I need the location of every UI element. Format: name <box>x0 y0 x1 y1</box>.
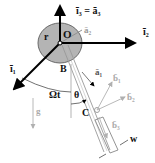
o-label: O <box>63 28 72 40</box>
b1-label: b̄₁ <box>113 73 121 83</box>
a2-label: ā₂ <box>84 25 92 35</box>
w-arrow-left <box>99 154 106 158</box>
center-o-point <box>58 41 62 45</box>
c-label: C <box>82 107 89 118</box>
theta-label: θ <box>74 89 79 100</box>
b-label: B <box>60 63 67 74</box>
b2-label: b̄₂ <box>127 92 135 102</box>
b1-vector <box>97 82 112 110</box>
i3-label: ī₃ = ā₃ <box>75 5 100 16</box>
w-label: w <box>130 133 138 144</box>
omega-t-arc <box>22 78 71 92</box>
diagram-canvas: ā₂ ā₁ b̄₁ b̄₂ b̄₃ w g ī₃ = ā₃ ī₂ ī₁ O r … <box>0 0 155 163</box>
omega-t-label: Ωt <box>49 89 61 100</box>
r-label: r <box>44 31 49 42</box>
g-label: g <box>36 106 41 116</box>
b3-label: b̄₃ <box>112 120 120 130</box>
i1-label: ī₁ <box>9 63 16 74</box>
i2-label: ī₂ <box>142 26 149 37</box>
i1-axis <box>14 43 60 89</box>
b2-vector <box>97 97 125 110</box>
a1-label: ā₁ <box>95 67 103 77</box>
b3-vector <box>99 117 107 138</box>
rod-left-edge <box>62 45 104 152</box>
w-arrow-right <box>120 140 128 145</box>
